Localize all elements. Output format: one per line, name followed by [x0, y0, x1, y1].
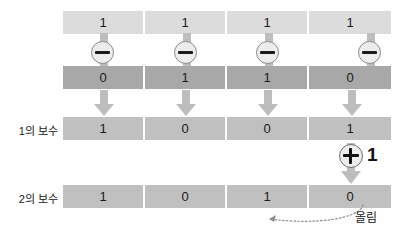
bit-cell: 1: [63, 117, 145, 140]
bit-cell: 1: [227, 11, 309, 34]
bit-cell: 0: [309, 66, 391, 89]
complement-diagram: 1 1 1 1 0 1 1 0: [0, 0, 417, 232]
not-operator: [358, 33, 384, 66]
plus-one-operator: 1: [338, 143, 400, 185]
not-operator: [174, 33, 200, 66]
arrow-head: [342, 104, 362, 116]
bit-cell: 1: [63, 185, 145, 208]
arrow-shaft: [264, 90, 272, 104]
plus-one-value: 1: [367, 142, 378, 168]
arrow-shaft: [348, 90, 356, 104]
row-label-twos-complement: 2의 보수: [6, 190, 58, 206]
arrow-head: [258, 104, 278, 116]
bit-row-ones-complement: 1 0 0 1: [63, 117, 391, 140]
down-arrow-icon: [94, 90, 114, 116]
down-arrow-icon: [258, 90, 278, 116]
arrow-shaft: [182, 90, 190, 104]
row-label-ones-complement: 1의 보수: [6, 122, 58, 138]
bit-cell: 0: [145, 185, 227, 208]
bit-cell: 0: [63, 66, 145, 89]
minus-glyph: [362, 51, 377, 54]
carry-label: 올림: [355, 208, 377, 225]
bit-cell: 1: [145, 66, 227, 89]
bit-cell: 0: [145, 117, 227, 140]
bit-row-inverted: 0 1 1 0: [63, 66, 391, 89]
bit-cell: 1: [63, 11, 145, 34]
bit-cell: 0: [227, 117, 309, 140]
arrow-shaft: [100, 90, 108, 104]
not-operator: [91, 33, 117, 66]
minus-glyph: [95, 51, 110, 54]
arrow-head: [341, 171, 361, 184]
minus-glyph: [178, 51, 193, 54]
bit-cell: 1: [309, 11, 391, 34]
bit-cell: 1: [309, 117, 391, 140]
not-operator: [256, 33, 282, 66]
bit-row-input: 1 1 1 1: [63, 11, 391, 34]
minus-glyph: [260, 51, 275, 54]
plus-glyph-vertical: [349, 148, 352, 164]
arrow-head: [94, 104, 114, 116]
arrow-head: [176, 104, 196, 116]
bit-cell: 1: [227, 66, 309, 89]
bit-cell: 1: [145, 11, 227, 34]
carry-arrow-icon: [255, 203, 370, 228]
down-arrow-icon: [176, 90, 196, 116]
down-arrow-icon: [342, 90, 362, 116]
